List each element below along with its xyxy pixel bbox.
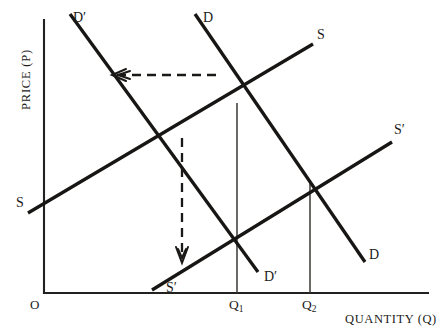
tick-label-q1-subscript: 1 — [239, 304, 244, 314]
supply-curve-original — [28, 44, 313, 213]
curve-label-supply-shifted-right: S′ — [394, 123, 405, 137]
tick-label-q1: Q1 — [229, 298, 244, 312]
curve-label-demand-shifted-bottom: D′ — [264, 270, 277, 284]
tick-label-q2-subscript: 2 — [312, 304, 317, 314]
curve-label-supply-top: S — [317, 28, 325, 42]
origin-label: O — [30, 298, 39, 311]
tick-label-q2: Q2 — [302, 298, 317, 312]
demand-curve-shifted — [70, 14, 258, 272]
supply-curve-shifted — [152, 142, 392, 290]
supply-demand-figure: PRICE (P) QUANTITY (Q) O Q1 Q2 D D D′ D′… — [0, 0, 444, 336]
curve-label-demand-top: D — [203, 11, 213, 25]
y-axis-label: PRICE (P) — [20, 49, 33, 110]
tick-label-q2-text: Q — [302, 297, 312, 312]
figure-canvas — [0, 0, 444, 336]
demand-curve-original — [195, 14, 365, 262]
x-axis-label: QUANTITY (Q) — [345, 313, 437, 326]
curve-label-demand-bottom: D — [369, 248, 379, 262]
tick-label-q1-text: Q — [229, 297, 239, 312]
curve-label-demand-shifted-top: D′ — [73, 11, 86, 25]
curve-label-supply-left: S — [16, 196, 24, 210]
curve-label-supply-shifted-bottom: S′ — [166, 281, 177, 295]
